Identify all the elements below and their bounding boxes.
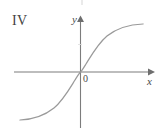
x-axis-label: x [147,76,152,87]
arrow-up-icon [77,16,84,23]
origin-label: 0 [83,74,88,84]
y-axis-label: y [72,14,77,25]
figure-panel: IV y x 0 [0,0,167,132]
panel-label: IV [12,14,27,28]
